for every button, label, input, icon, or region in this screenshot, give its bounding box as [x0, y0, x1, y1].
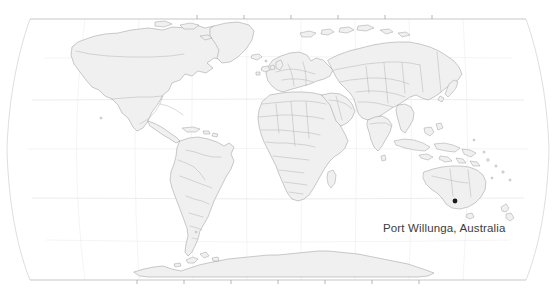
landmass-antarctica [134, 251, 434, 277]
landmass-new-zealand [501, 204, 514, 221]
landmass-australia [423, 166, 486, 219]
landmass-south-america [170, 137, 234, 256]
location-label: Port Willunga, Australia [383, 221, 506, 235]
landmass-north-atlantic-islands [251, 54, 267, 62]
world-map-container: Port Willunga, Australia [0, 0, 555, 295]
landmass-europe [256, 52, 333, 92]
landmass-india [367, 116, 392, 161]
location-marker-dot[interactable] [453, 199, 458, 204]
world-map-graphic [0, 0, 555, 295]
